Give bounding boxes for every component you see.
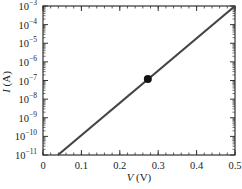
y-tick-label: 10−5 xyxy=(19,35,38,49)
minor-ticks xyxy=(43,6,235,155)
x-axis-tick-labels: 00.10.20.30.40.5 xyxy=(40,160,241,171)
x-tick-label: 0 xyxy=(40,160,45,171)
iv-chart: 10−1110−1010−910−810−710−610−510−410−3 0… xyxy=(0,0,242,189)
y-tick-label: 10−3 xyxy=(19,0,38,12)
operating-point-marker xyxy=(144,75,152,83)
y-tick-label: 10−8 xyxy=(19,91,38,105)
y-tick-label: 10−7 xyxy=(19,73,38,87)
plot-frame xyxy=(43,6,235,155)
y-tick-label: 10−11 xyxy=(15,147,37,161)
x-tick-label: 0.5 xyxy=(228,160,241,171)
y-tick-label: 10−10 xyxy=(15,128,37,142)
y-tick-label: 10−9 xyxy=(19,110,38,124)
y-tick-label: 10−6 xyxy=(19,54,38,68)
major-ticks xyxy=(43,6,235,155)
y-axis-title: I (A) xyxy=(0,71,13,94)
x-axis-title: V (V) xyxy=(127,171,152,184)
x-tick-label: 0.2 xyxy=(113,160,126,171)
x-tick-label: 0.4 xyxy=(190,160,204,171)
x-tick-label: 0.1 xyxy=(75,160,88,171)
x-tick-label: 0.3 xyxy=(152,160,165,171)
y-axis-tick-labels: 10−1110−1010−910−810−710−610−510−410−3 xyxy=(15,0,37,161)
y-tick-label: 10−4 xyxy=(19,17,38,31)
